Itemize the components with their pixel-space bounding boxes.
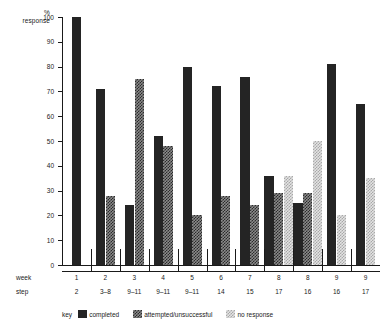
y-axis-tick <box>58 17 62 18</box>
legend-label-no-response: no response <box>237 311 273 318</box>
category-cell-step: 3–8 <box>91 288 120 295</box>
category-cell-week: 5 <box>178 274 207 281</box>
category-cell-step: 15 <box>235 288 264 295</box>
category-cell-step: 14 <box>207 288 236 295</box>
bar-group <box>356 17 375 265</box>
bar-group <box>183 17 202 265</box>
bar <box>183 67 192 265</box>
bar-group <box>264 17 293 265</box>
category-separator <box>178 249 179 271</box>
category-cell-step: 16 <box>322 288 351 295</box>
legend-swatch-attempted-icon <box>133 310 142 318</box>
bar <box>293 203 302 265</box>
y-axis-tick <box>58 67 62 68</box>
legend-item-attempted: attempted/unsuccessful <box>133 310 212 318</box>
category-cell-step: 9–11 <box>120 288 149 295</box>
category-separator <box>149 249 150 271</box>
category-cell-week: 9 <box>322 274 351 281</box>
legend-item-completed: completed <box>78 310 119 318</box>
category-cell-week: 8 <box>264 274 293 281</box>
y-axis-tick <box>58 166 62 167</box>
bar-group <box>96 17 115 265</box>
y-axis-tick-label: 40 <box>28 162 54 169</box>
bar <box>313 141 322 265</box>
bar <box>154 136 163 265</box>
legend-item-no-response: no response <box>226 310 273 318</box>
y-axis-tick <box>58 141 62 142</box>
y-axis-tick <box>58 91 62 92</box>
category-cell-step: 17 <box>351 288 380 295</box>
bar <box>240 77 249 265</box>
bar <box>303 193 312 265</box>
y-axis-line <box>62 17 63 266</box>
bar <box>337 215 346 265</box>
y-axis-tick-label: 30 <box>28 187 54 194</box>
y-axis-tick-label: 60 <box>28 113 54 120</box>
bar-group <box>240 17 259 265</box>
category-cell-week: 9 <box>351 274 380 281</box>
y-axis-tick-label: 100 <box>28 14 54 21</box>
bar <box>274 193 283 265</box>
bar <box>356 104 365 265</box>
legend-label-attempted: attempted/unsuccessful <box>144 311 212 318</box>
category-separator <box>322 249 323 271</box>
legend-label-completed: completed <box>89 311 119 318</box>
y-axis-tick-label: 80 <box>28 63 54 70</box>
category-separator <box>351 249 352 271</box>
bar-group <box>327 17 346 265</box>
category-cell-step: 9–11 <box>178 288 207 295</box>
bar <box>192 215 201 265</box>
y-axis-tick <box>58 191 62 192</box>
category-separator <box>235 249 236 271</box>
category-cell-step: 17 <box>264 288 293 295</box>
bar <box>264 176 273 265</box>
bar <box>72 17 81 265</box>
bar <box>221 196 230 265</box>
bar <box>250 205 259 265</box>
bar <box>327 64 336 265</box>
bar <box>96 89 105 265</box>
category-separator <box>120 249 121 271</box>
category-row-label-week: week <box>16 274 60 281</box>
bar-group <box>125 17 144 265</box>
bar-chart: % response 0102030405060708090100 week s… <box>0 0 388 330</box>
y-axis-tick-label: 50 <box>28 138 54 145</box>
category-separator <box>91 249 92 271</box>
category-cell-week: 8 <box>293 274 322 281</box>
category-separator <box>264 249 265 271</box>
category-separator <box>293 249 294 271</box>
legend-title: key <box>62 311 72 318</box>
y-axis-tick-label: 10 <box>28 237 54 244</box>
plot-area: 0102030405060708090100 <box>62 17 380 266</box>
category-cell-step: 2 <box>62 288 91 295</box>
category-cell-week: 4 <box>149 274 178 281</box>
bar <box>284 176 293 265</box>
bar <box>135 79 144 265</box>
y-axis-tick <box>58 240 62 241</box>
y-axis-tick-label: 70 <box>28 88 54 95</box>
category-cell-week: 2 <box>91 274 120 281</box>
category-cell-week: 1 <box>62 274 91 281</box>
category-cell-week: 3 <box>120 274 149 281</box>
y-axis-tick <box>58 116 62 117</box>
category-cell-step: 16 <box>293 288 322 295</box>
category-cell-week: 7 <box>235 274 264 281</box>
bar <box>366 178 375 265</box>
chart-legend: key completed attempted/unsuccessful no … <box>62 310 287 318</box>
bar <box>106 196 115 265</box>
category-cell-week: 6 <box>207 274 236 281</box>
bar <box>125 205 134 265</box>
y-axis-tick-label: 20 <box>28 212 54 219</box>
bar-group <box>72 17 81 265</box>
bar <box>212 86 221 265</box>
bar-group <box>293 17 322 265</box>
bar-group <box>154 17 173 265</box>
legend-swatch-no-response-icon <box>226 310 235 318</box>
y-axis-tick-label: 90 <box>28 38 54 45</box>
bar-group <box>212 17 231 265</box>
x-axis-line <box>62 265 380 266</box>
category-row-label-step: step <box>16 288 60 295</box>
legend-swatch-completed-icon <box>78 310 87 318</box>
y-axis-tick <box>58 42 62 43</box>
y-axis-tick-label: 0 <box>28 262 54 269</box>
